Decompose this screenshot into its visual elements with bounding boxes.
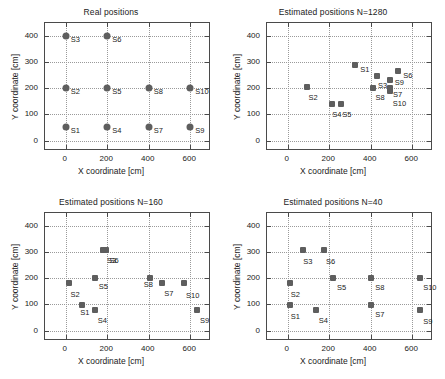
x-axis-tick-label: 600 bbox=[183, 154, 196, 163]
gridline-horizontal bbox=[267, 331, 431, 332]
x-axis-tick-label: 200 bbox=[100, 344, 113, 353]
data-point-label: S2 bbox=[308, 93, 317, 102]
y-axis-label: Y coordinate [cm] bbox=[10, 244, 20, 310]
x-axis-tick bbox=[149, 145, 150, 149]
data-point-marker bbox=[92, 275, 98, 281]
data-point-marker bbox=[329, 101, 335, 107]
data-point-marker bbox=[287, 280, 293, 286]
x-axis-tick bbox=[288, 335, 289, 339]
data-point-label: S10 bbox=[423, 283, 436, 292]
x-axis-tick bbox=[329, 145, 330, 149]
gridline-vertical bbox=[288, 23, 289, 149]
y-axis-tick-label: 400 bbox=[0, 221, 38, 230]
data-point-marker bbox=[368, 302, 374, 308]
y-axis-label: Y coordinate [cm] bbox=[232, 244, 242, 310]
data-point-label: S1 bbox=[291, 312, 300, 321]
data-point-label: S5 bbox=[112, 87, 121, 96]
x-axis-tick bbox=[107, 23, 108, 27]
y-axis-tick bbox=[427, 331, 431, 332]
plot-area: S1S2S3S4S5S6S7S8S9S10 bbox=[266, 212, 432, 340]
y-axis-tick bbox=[427, 36, 431, 37]
y-axis-tick bbox=[427, 62, 431, 63]
data-point-label: S9 bbox=[423, 317, 432, 326]
x-axis-tick-label: 200 bbox=[100, 154, 113, 163]
data-point-label: S1 bbox=[71, 126, 80, 135]
x-axis-label: X coordinate [cm] bbox=[222, 166, 444, 176]
y-axis-tick bbox=[45, 88, 49, 89]
data-point-label: S9 bbox=[200, 316, 209, 325]
y-axis-tick bbox=[267, 331, 271, 332]
x-axis-tick bbox=[412, 213, 413, 217]
x-axis-tick-label: 200 bbox=[322, 154, 335, 163]
x-axis-tick bbox=[190, 213, 191, 217]
gridline-vertical bbox=[107, 213, 108, 339]
data-point-label: S1 bbox=[80, 308, 89, 317]
data-point-marker bbox=[417, 275, 423, 281]
gridline-horizontal bbox=[267, 62, 431, 63]
data-point-marker bbox=[104, 33, 111, 40]
y-axis-tick-label: 400 bbox=[222, 221, 260, 230]
x-axis-tick bbox=[66, 213, 67, 217]
x-axis-tick bbox=[329, 23, 330, 27]
y-axis-tick bbox=[205, 114, 209, 115]
gridline-horizontal bbox=[45, 114, 209, 115]
data-point-marker bbox=[181, 280, 187, 286]
gridline-vertical bbox=[412, 23, 413, 149]
gridline-horizontal bbox=[45, 331, 209, 332]
y-axis-tick bbox=[205, 141, 209, 142]
y-axis-tick-label: 0 bbox=[222, 135, 260, 144]
y-axis-tick bbox=[267, 304, 271, 305]
x-axis-tick bbox=[66, 23, 67, 27]
data-point-label: S3 bbox=[71, 35, 80, 44]
x-axis-tick bbox=[149, 23, 150, 27]
gridline-horizontal bbox=[267, 88, 431, 89]
data-point-marker bbox=[145, 85, 152, 92]
chart-panel-2: Estimated positions N=128002004006000100… bbox=[222, 0, 444, 189]
x-axis-tick-label: 0 bbox=[63, 344, 67, 353]
data-point-marker bbox=[66, 280, 72, 286]
x-axis-tick bbox=[66, 145, 67, 149]
data-point-marker bbox=[395, 68, 401, 74]
data-point-marker bbox=[104, 124, 111, 131]
x-axis-tick bbox=[107, 335, 108, 339]
y-axis-tick-label: 400 bbox=[222, 31, 260, 40]
gridline-vertical bbox=[288, 213, 289, 339]
y-axis-tick bbox=[45, 36, 49, 37]
y-axis-tick bbox=[45, 278, 49, 279]
x-axis-tick bbox=[149, 213, 150, 217]
x-axis-tick bbox=[329, 213, 330, 217]
data-point-label: S9 bbox=[395, 78, 404, 87]
data-point-label: S8 bbox=[144, 280, 153, 289]
figure-canvas: Real positions02004006000100200300400S1S… bbox=[0, 0, 445, 379]
data-point-marker bbox=[145, 124, 152, 131]
x-axis-tick-label: 0 bbox=[63, 154, 67, 163]
y-axis-tick bbox=[205, 252, 209, 253]
gridline-horizontal bbox=[45, 252, 209, 253]
y-axis-tick bbox=[267, 114, 271, 115]
x-axis-tick-label: 600 bbox=[405, 344, 418, 353]
y-axis-tick-label: 0 bbox=[0, 135, 38, 144]
y-axis-tick bbox=[45, 114, 49, 115]
data-point-label: S10 bbox=[195, 87, 208, 96]
data-point-label: S9 bbox=[195, 126, 204, 135]
y-axis-tick bbox=[45, 331, 49, 332]
chart-panel-4: Estimated positions N=400200400600010020… bbox=[222, 190, 444, 379]
y-axis-tick bbox=[427, 252, 431, 253]
x-axis-label: X coordinate [cm] bbox=[222, 356, 444, 366]
gridline-horizontal bbox=[45, 304, 209, 305]
y-axis-tick bbox=[205, 36, 209, 37]
data-point-marker bbox=[187, 85, 194, 92]
y-axis-tick bbox=[205, 304, 209, 305]
data-point-label: S6 bbox=[403, 71, 412, 80]
gridline-horizontal bbox=[45, 36, 209, 37]
x-axis-tick bbox=[371, 23, 372, 27]
data-point-marker bbox=[352, 62, 358, 68]
y-axis-tick-label: 400 bbox=[0, 31, 38, 40]
gridline-vertical bbox=[66, 213, 67, 339]
data-point-marker bbox=[62, 85, 69, 92]
data-point-marker bbox=[104, 85, 111, 92]
gridline-vertical bbox=[190, 213, 191, 339]
x-axis-tick-label: 200 bbox=[322, 344, 335, 353]
y-axis-tick bbox=[267, 226, 271, 227]
x-axis-tick-label: 400 bbox=[141, 344, 154, 353]
